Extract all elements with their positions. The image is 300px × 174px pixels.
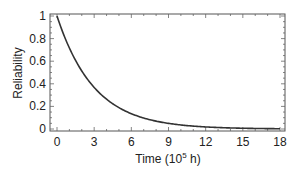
axis-ticks (50, 14, 285, 131)
y-tick-label: 0.2 (29, 99, 46, 113)
x-axis-label: Time (105 h) (135, 151, 200, 166)
reliability-curve (57, 16, 280, 129)
plot-frame (50, 14, 285, 131)
x-tick-label: 6 (128, 135, 135, 149)
y-tick-labels: 00.20.40.60.81 (29, 9, 46, 136)
x-tick-label: 18 (273, 135, 287, 149)
x-tick-labels: 0369121518 (54, 135, 287, 149)
y-axis-label: Reliability (11, 47, 25, 98)
y-tick-label: 1 (39, 9, 46, 23)
x-tick-label: 0 (54, 135, 61, 149)
x-tick-label: 3 (91, 135, 98, 149)
y-tick-label: 0.4 (29, 77, 46, 91)
x-tick-label: 9 (165, 135, 172, 149)
x-tick-label: 15 (236, 135, 250, 149)
x-tick-label: 12 (199, 135, 213, 149)
reliability-chart: 0369121518 00.20.40.60.81 Time (105 h) R… (0, 0, 300, 174)
y-tick-label: 0.6 (29, 54, 46, 68)
y-tick-label: 0.8 (29, 32, 46, 46)
y-tick-label: 0 (39, 122, 46, 136)
